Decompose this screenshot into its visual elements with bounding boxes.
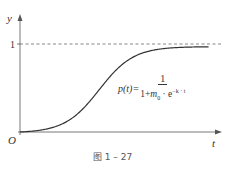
formula-fraction: 1 1+m0 · e−k · t bbox=[140, 73, 185, 104]
formula-annotation: p(t)= 1 1+m0 · e−k · t bbox=[118, 73, 185, 104]
formula-denominator: 1+m0 · e−k · t bbox=[140, 85, 185, 104]
y-axis-label: y bbox=[6, 12, 12, 24]
chart: 1 y t O bbox=[0, 0, 225, 172]
y-axis-arrow bbox=[18, 14, 23, 21]
y-tick-label-1: 1 bbox=[10, 39, 15, 50]
figure-caption: 图 1 – 27 bbox=[0, 150, 225, 163]
origin-label: O bbox=[8, 134, 16, 146]
x-axis-label: t bbox=[212, 137, 216, 149]
formula-numerator: 1 bbox=[158, 73, 167, 85]
formula-lhs: p(t)= bbox=[118, 83, 139, 94]
x-axis-arrow bbox=[215, 130, 222, 135]
